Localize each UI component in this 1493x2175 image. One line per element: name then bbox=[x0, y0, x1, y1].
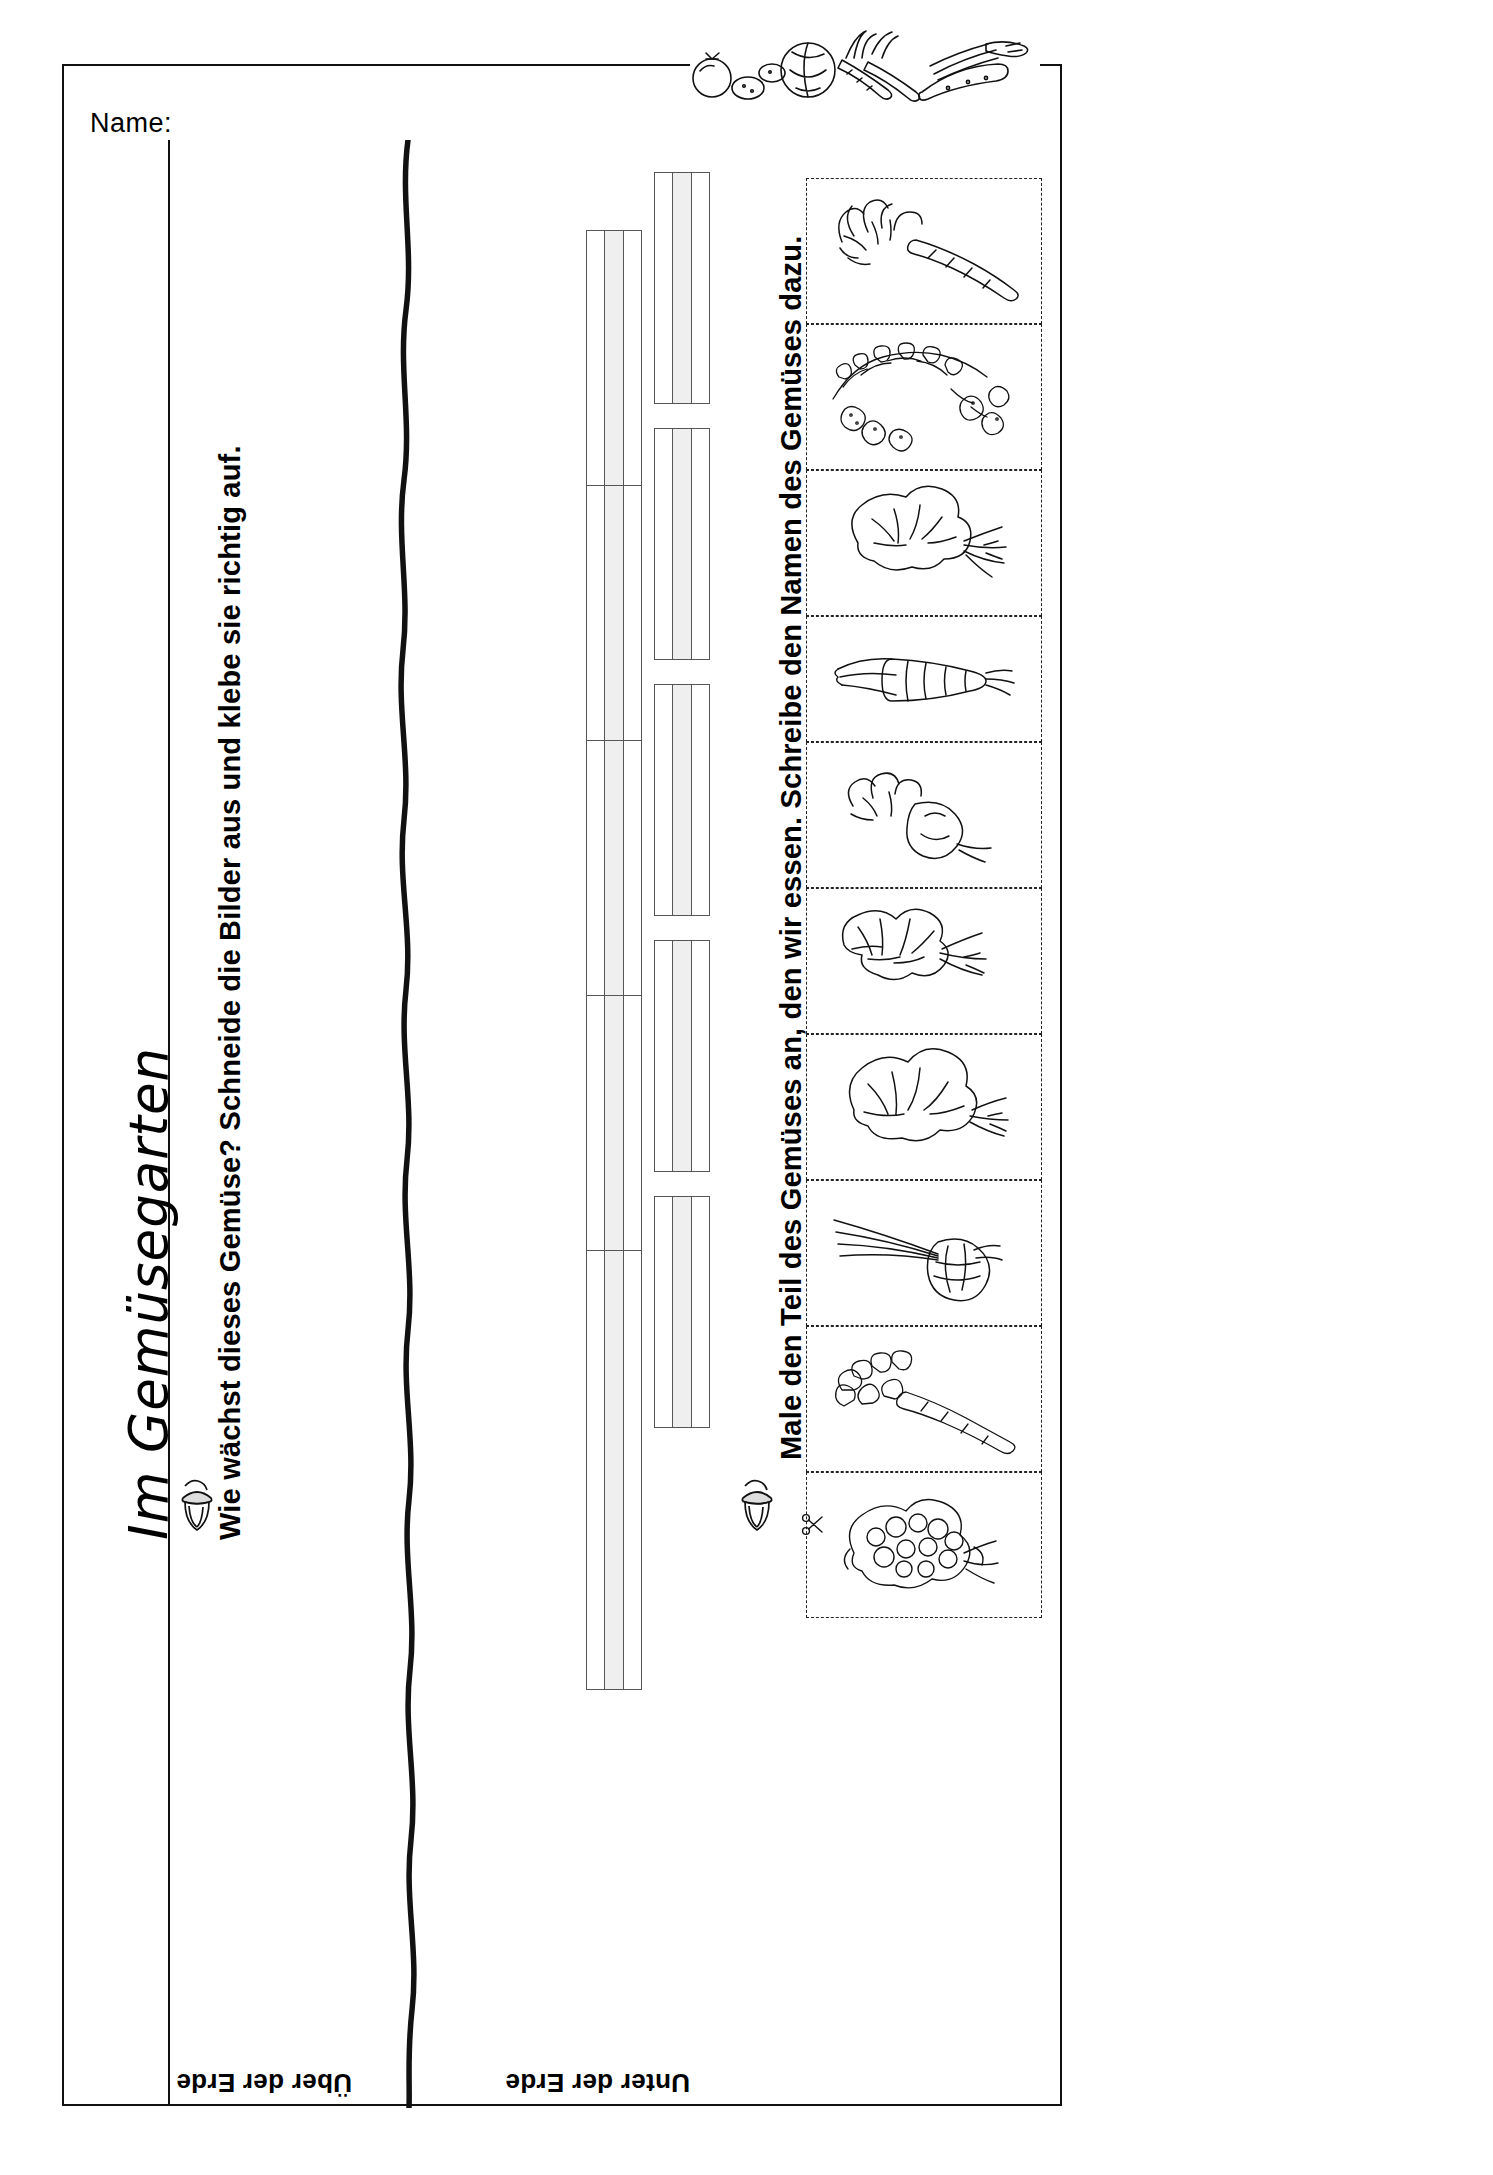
answer-box[interactable] bbox=[654, 172, 710, 404]
picture-cell-carrot[interactable] bbox=[806, 178, 1042, 324]
picture-cell-cauliflower[interactable] bbox=[806, 1472, 1042, 1618]
acorn-icon bbox=[176, 1476, 218, 1538]
answer-cell[interactable] bbox=[692, 429, 709, 659]
cut-out-picture-column bbox=[806, 178, 1042, 1500]
picture-cell-leek[interactable] bbox=[806, 616, 1042, 742]
kohlrabi-icon bbox=[824, 1046, 1024, 1168]
picture-cell-kohlrabi[interactable] bbox=[806, 1034, 1042, 1180]
picture-cell-onion[interactable] bbox=[806, 1180, 1042, 1326]
answer-cell[interactable] bbox=[655, 685, 673, 915]
answer-cell[interactable] bbox=[655, 173, 673, 403]
leek-icon bbox=[824, 639, 1024, 719]
wavy-divider-line bbox=[370, 140, 440, 2112]
soil-label-below: Unter der Erde bbox=[505, 2067, 690, 2098]
answer-cell[interactable] bbox=[587, 1251, 605, 1689]
answer-cell[interactable] bbox=[673, 429, 691, 659]
soil-label-above: Über der Erde bbox=[176, 2067, 352, 2098]
onion-icon bbox=[824, 1200, 1024, 1306]
parsnip-icon bbox=[824, 1342, 1024, 1456]
task-2-instruction: Male den Teil des Gemüses an, den wir es… bbox=[775, 236, 808, 1460]
answer-cell[interactable] bbox=[692, 941, 709, 1171]
answer-cell[interactable] bbox=[624, 1251, 641, 1689]
answer-box[interactable] bbox=[654, 684, 710, 916]
answer-cell[interactable] bbox=[655, 429, 673, 659]
answer-cell[interactable] bbox=[655, 941, 673, 1171]
answer-cell[interactable] bbox=[655, 1197, 673, 1427]
potato-plant-icon bbox=[821, 337, 1027, 457]
scissors-icon bbox=[800, 1512, 826, 1542]
name-label: Name: bbox=[90, 108, 172, 139]
answer-box[interactable] bbox=[654, 428, 710, 660]
answer-cell[interactable] bbox=[692, 173, 709, 403]
answer-box[interactable] bbox=[654, 940, 710, 1172]
picture-cell-parsnip[interactable] bbox=[806, 1326, 1042, 1472]
celeriac-icon bbox=[824, 483, 1024, 603]
worksheet-page: Name: Im Gemüsegarten Wie wächst dieses … bbox=[0, 0, 1493, 2175]
answer-cell[interactable] bbox=[692, 685, 709, 915]
page-title: Im Gemüsegarten bbox=[118, 1047, 179, 1540]
answer-cell[interactable] bbox=[673, 941, 691, 1171]
picture-cell-potato-plant[interactable] bbox=[806, 324, 1042, 470]
vegetable-assortment-icon bbox=[686, 18, 1036, 117]
answer-cell[interactable] bbox=[673, 173, 691, 403]
answer-cell[interactable] bbox=[673, 1197, 691, 1427]
answer-cell[interactable] bbox=[605, 1251, 623, 1689]
answer-box[interactable] bbox=[654, 1196, 710, 1428]
picture-cell-celeriac[interactable] bbox=[806, 470, 1042, 616]
answer-cell[interactable] bbox=[692, 1197, 709, 1427]
radish-icon bbox=[829, 758, 1019, 872]
answer-box[interactable] bbox=[586, 1250, 642, 1690]
task-1-instruction: Wie wächst dieses Gemüse? Schneide die B… bbox=[214, 445, 247, 1540]
cauliflower-icon bbox=[824, 1483, 1024, 1607]
answer-cell[interactable] bbox=[673, 685, 691, 915]
carrot-icon bbox=[824, 192, 1024, 310]
acorn-icon bbox=[736, 1476, 778, 1538]
picture-cell-chard[interactable] bbox=[806, 888, 1042, 1034]
chard-icon bbox=[824, 901, 1024, 1021]
picture-cell-radish[interactable] bbox=[806, 742, 1042, 888]
